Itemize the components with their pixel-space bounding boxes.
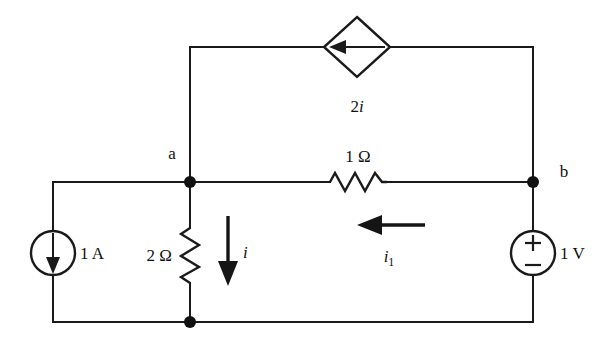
current-source-label: 1 A bbox=[80, 244, 105, 263]
node-label-b: b bbox=[560, 162, 569, 181]
current-arrow-i1 bbox=[357, 215, 425, 235]
resistor-1ohm-label: 1 Ω bbox=[345, 147, 370, 166]
current-arrow-i bbox=[218, 216, 238, 286]
current-i1-label: i1 bbox=[384, 247, 395, 269]
dependent-source-label-coefficient: 2 bbox=[350, 97, 359, 116]
voltage-source-label: 1 V bbox=[560, 244, 585, 263]
current-i1-label-subscript: 1 bbox=[388, 255, 394, 269]
node-dot-ground bbox=[184, 316, 196, 328]
node-dot-a bbox=[184, 176, 196, 188]
node-dot-b bbox=[527, 176, 539, 188]
resistor-1ohm[interactable] bbox=[330, 173, 387, 191]
resistor-2ohm[interactable] bbox=[181, 228, 199, 283]
dependent-source-label: 2i bbox=[350, 97, 364, 116]
dependent-source-label-variable: i bbox=[359, 97, 364, 116]
wire-group bbox=[53, 47, 533, 322]
independent-voltage-source[interactable] bbox=[511, 231, 555, 275]
current-i-label: i bbox=[243, 243, 248, 262]
current-i-head-icon bbox=[218, 261, 238, 286]
current-i-label-variable: i bbox=[243, 243, 248, 262]
resistor-2ohm-zigzag bbox=[181, 228, 199, 283]
independent-current-source[interactable] bbox=[31, 231, 75, 275]
node-label-a: a bbox=[168, 144, 176, 163]
current-i1-head-icon bbox=[357, 215, 382, 235]
resistor-1ohm-zigzag bbox=[330, 173, 387, 191]
resistor-2ohm-label: 2 Ω bbox=[147, 246, 172, 265]
circuit-diagram: 2i 1 Ω 2 Ω 1 A 1 V i i1 bbox=[0, 0, 615, 347]
dependent-current-source[interactable] bbox=[324, 17, 390, 77]
